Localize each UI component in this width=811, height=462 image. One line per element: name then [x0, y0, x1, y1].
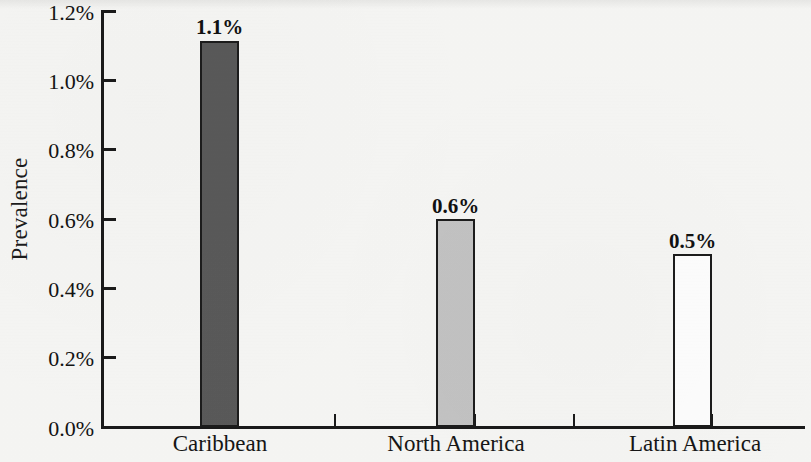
- page-top-edge-shading: [0, 0, 811, 9]
- y-axis-tick-label-group: 1.2% 1.0% 0.8% 0.6% 0.4% 0.2% 0.0%: [14, 0, 94, 462]
- y-tick-label-1_2: 1.2%: [18, 2, 94, 24]
- bar-chart-figure: Prevalence 1.2% 1.0% 0.8% 0.6% 0.4% 0.2%…: [0, 0, 811, 462]
- y-tick-label-1_0: 1.0%: [18, 71, 94, 93]
- y-tick-mark-0_4: [104, 287, 116, 290]
- y-tick-label-0_6: 0.6%: [18, 210, 94, 232]
- x-tick-mark-4: [573, 414, 575, 427]
- y-tick-mark-1_2: [104, 10, 116, 13]
- x-tick-mark-1: [334, 414, 336, 427]
- y-tick-mark-0_8: [104, 148, 116, 151]
- x-axis-category-label-caribbean: Caribbean: [140, 432, 300, 455]
- bar-value-label-latin-america: 0.5%: [653, 231, 732, 252]
- y-tick-mark-0_6: [104, 218, 116, 221]
- bar-value-label-caribbean: 1.1%: [180, 17, 259, 38]
- y-tick-label-0_4: 0.4%: [18, 279, 94, 301]
- y-tick-label-0_2: 0.2%: [18, 348, 94, 370]
- y-tick-label-0_0: 0.0%: [18, 418, 94, 440]
- bar-caribbean: [200, 41, 239, 427]
- x-axis-category-label-latin-america: Latin America: [605, 432, 785, 455]
- x-axis-category-label-north-america: North America: [366, 432, 546, 455]
- y-tick-mark-1_0: [104, 79, 116, 82]
- y-tick-mark-0_2: [104, 356, 116, 359]
- bar-north-america: [436, 219, 475, 427]
- y-tick-label-0_8: 0.8%: [18, 140, 94, 162]
- bar-value-label-north-america: 0.6%: [416, 196, 495, 217]
- bar-latin-america: [673, 254, 712, 427]
